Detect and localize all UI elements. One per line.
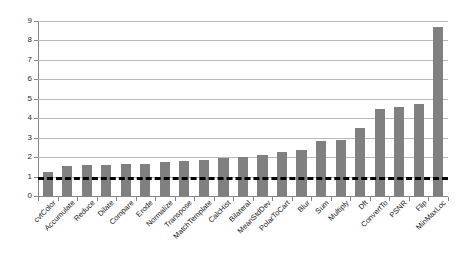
bar[interactable]	[394, 107, 404, 196]
bar-slot	[409, 21, 429, 196]
bar-slot	[311, 21, 331, 196]
plot-area: 0123456789	[38, 21, 448, 196]
bar-slot	[233, 21, 253, 196]
y-tick-label: 8	[28, 36, 32, 44]
bar-slot	[350, 21, 370, 196]
x-axis-label: Blur	[296, 199, 311, 214]
bar[interactable]	[121, 164, 131, 196]
x-axis-label: PSNR	[388, 199, 408, 219]
bar[interactable]	[336, 140, 346, 196]
bar[interactable]	[277, 152, 287, 196]
bar[interactable]	[316, 141, 326, 196]
bar-slot	[428, 21, 448, 196]
y-tick-label: 5	[28, 95, 32, 103]
y-tick-label: 1	[28, 173, 32, 181]
bar[interactable]	[62, 166, 72, 196]
bar-slot	[58, 21, 78, 196]
bar-slot	[155, 21, 175, 196]
y-tick-label: 3	[28, 134, 32, 142]
x-axis-labels: cvtColorAccumulateReduceDilateCompareEro…	[38, 199, 458, 269]
bar-slot	[370, 21, 390, 196]
x-axis-label: Flip	[414, 199, 428, 213]
bar-slot	[331, 21, 351, 196]
bar[interactable]	[414, 104, 424, 196]
y-tick-label: 0	[28, 192, 32, 200]
bar[interactable]	[82, 165, 92, 196]
bar[interactable]	[355, 128, 365, 196]
y-tick-label: 9	[28, 17, 32, 25]
bar-slot	[272, 21, 292, 196]
bar-slot	[116, 21, 136, 196]
bar[interactable]	[140, 164, 150, 196]
bar-slot	[175, 21, 195, 196]
bar-chart: 0123456789 cvtColorAccumulateReduceDilat…	[0, 0, 458, 269]
x-axis-label: Dft	[357, 199, 369, 211]
bar[interactable]	[257, 155, 267, 196]
bar-slot	[136, 21, 156, 196]
bar-slot	[77, 21, 97, 196]
y-tick-label: 2	[28, 153, 32, 161]
bar-slot	[253, 21, 273, 196]
y-tick-label: 7	[28, 56, 32, 64]
y-tick-label: 4	[28, 114, 32, 122]
bar[interactable]	[101, 165, 111, 196]
bar-slot	[389, 21, 409, 196]
y-tick-label: 6	[28, 75, 32, 83]
bar[interactable]	[43, 172, 53, 196]
x-axis-label: Reduce	[73, 199, 97, 223]
threshold-line	[38, 177, 448, 180]
bar-slot	[97, 21, 117, 196]
bar[interactable]	[433, 27, 443, 196]
x-axis-label: Multiply	[327, 199, 350, 222]
bar-slot	[292, 21, 312, 196]
bar[interactable]	[296, 150, 306, 196]
bar-slot	[38, 21, 58, 196]
bar-slot	[194, 21, 214, 196]
bar-slot	[214, 21, 234, 196]
bar-series	[38, 21, 448, 196]
bar[interactable]	[375, 109, 385, 196]
